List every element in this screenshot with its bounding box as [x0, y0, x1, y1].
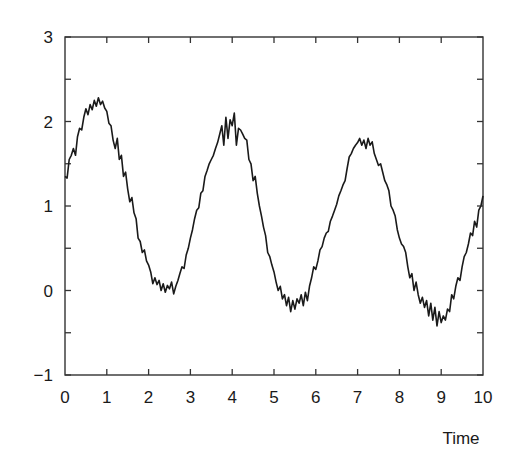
x-tick-label: 6: [311, 388, 320, 407]
x-tick-label: 9: [436, 388, 445, 407]
y-tick-label: 2: [44, 113, 53, 132]
x-tick-label: 4: [227, 388, 236, 407]
y-axis-ticks: [65, 37, 483, 375]
x-tick-label: 10: [474, 388, 493, 407]
y-tick-label: 1: [44, 197, 53, 216]
x-tick-label: 2: [144, 388, 153, 407]
line-chart: −10123 012345678910 Time: [0, 0, 518, 465]
plot-border: [65, 37, 483, 375]
x-tick-label: 3: [186, 388, 195, 407]
x-tick-label: 0: [60, 388, 69, 407]
x-axis-tick-labels: 012345678910: [60, 388, 492, 407]
x-axis-title: Time: [442, 429, 479, 448]
signal-line: [65, 98, 483, 326]
y-axis-tick-labels: −10123: [34, 28, 53, 385]
y-tick-label: −1: [34, 366, 53, 385]
x-tick-label: 8: [395, 388, 404, 407]
y-tick-label: 3: [44, 28, 53, 47]
x-tick-label: 7: [353, 388, 362, 407]
y-tick-label: 0: [44, 282, 53, 301]
x-tick-label: 1: [102, 388, 111, 407]
x-tick-label: 5: [269, 388, 278, 407]
plot-frame: [65, 37, 483, 375]
